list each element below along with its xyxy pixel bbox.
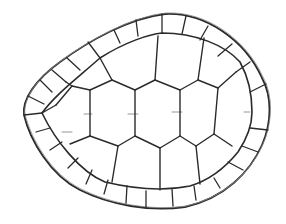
turtle-shell-sketch — [0, 0, 286, 224]
